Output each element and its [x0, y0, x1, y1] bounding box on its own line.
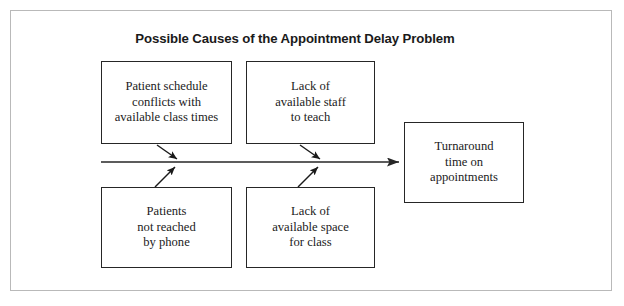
cause-box-patients-not-reached: Patients not reached by phone	[101, 187, 232, 268]
cause-line: by phone	[143, 235, 190, 249]
effect-line: appointments	[430, 170, 498, 184]
cause-box-lack-available-staff: Lack of available staff to teach	[246, 61, 375, 144]
figure-title: Possible Causes of the Appointment Delay…	[60, 31, 530, 46]
effect-line: Turnaround	[434, 139, 493, 153]
cause-line: available staff	[275, 95, 346, 109]
cause-box-lack-available-space: Lack of available space for class	[246, 187, 375, 268]
cause-line: Patients	[147, 204, 187, 218]
cause-line: Patient schedule	[125, 79, 207, 93]
cause-box-label: Lack of available staff to teach	[251, 79, 370, 125]
cause-line: for class	[289, 235, 331, 249]
effect-line: time on	[445, 155, 483, 169]
cause-box-label: Patient schedule conflicts with availabl…	[106, 79, 227, 125]
cause-line: Lack of	[291, 79, 330, 93]
cause-line: conflicts with	[132, 95, 201, 109]
cause-box-label: Lack of available space for class	[251, 204, 370, 250]
cause-line: not reached	[137, 220, 195, 234]
cause-box-label: Patients not reached by phone	[106, 204, 227, 250]
cause-box-patient-schedule-conflicts: Patient schedule conflicts with availabl…	[101, 61, 232, 144]
cause-line: available class times	[115, 110, 219, 124]
cause-line: Lack of	[291, 204, 330, 218]
effect-box-turnaround-time: Turnaround time on appointments	[404, 122, 524, 203]
cause-and-effect-figure: Possible Causes of the Appointment Delay…	[0, 0, 624, 306]
cause-line: to teach	[291, 110, 331, 124]
effect-box-label: Turnaround time on appointments	[409, 139, 519, 185]
cause-line: available space	[272, 220, 349, 234]
